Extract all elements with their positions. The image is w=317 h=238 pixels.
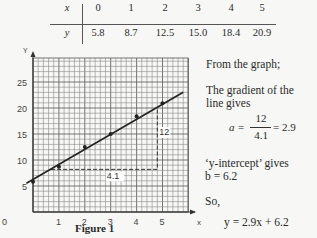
gradient-denominator: 4.1 bbox=[251, 129, 271, 141]
x-axis-arrow-icon bbox=[190, 210, 196, 215]
explanation-line: From the graph; bbox=[206, 58, 280, 71]
data-point bbox=[135, 114, 139, 118]
explanation-line: The gradient of the bbox=[206, 84, 294, 97]
x-axis-label: x bbox=[197, 218, 201, 227]
figure-caption: Figure 1 bbox=[75, 222, 114, 234]
gradient-numerator: 12 bbox=[251, 112, 271, 124]
y-tick-label: 25 bbox=[17, 78, 27, 88]
intercept-line: ‘y-intercept’ gives bbox=[205, 157, 289, 170]
data-point bbox=[31, 180, 35, 184]
triangle-rise-label: 12 bbox=[159, 127, 169, 137]
y-tick-label: 10 bbox=[17, 156, 27, 166]
data-point bbox=[57, 165, 61, 169]
final-equation: y = 2.9x + 6.2 bbox=[224, 216, 289, 229]
so-label: So, bbox=[205, 195, 220, 208]
data-point bbox=[83, 145, 87, 149]
x-tick-label: 0 bbox=[2, 217, 7, 227]
intercept-value: b = 6.2 bbox=[205, 170, 237, 183]
x-tick-label: 5 bbox=[160, 217, 165, 227]
gradient-lhs: a = bbox=[229, 121, 245, 133]
y-tick-label: 20 bbox=[17, 104, 27, 114]
triangle-run-label: 4.1 bbox=[107, 171, 120, 181]
y-axis-label: Y bbox=[23, 47, 28, 54]
explanation-line: line gives bbox=[206, 97, 250, 110]
x-tick-label: 4 bbox=[134, 217, 139, 227]
y-tick-label: 15 bbox=[17, 130, 27, 140]
fraction-bar bbox=[250, 127, 271, 128]
data-point bbox=[161, 101, 165, 105]
data-point bbox=[109, 132, 113, 136]
gradient-result: = 2.9 bbox=[273, 121, 296, 133]
y-axis-arrow-icon bbox=[31, 51, 36, 57]
x-tick-label: 1 bbox=[56, 217, 61, 227]
